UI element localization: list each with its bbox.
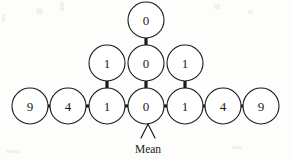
node-base-1: 4 bbox=[50, 88, 86, 124]
node-middle-0: 1 bbox=[89, 45, 125, 81]
caret-up-icon bbox=[141, 124, 155, 138]
node-label: 4 bbox=[65, 99, 72, 114]
node-middle-1: 0 bbox=[128, 45, 164, 81]
node-label: 0 bbox=[143, 99, 150, 114]
node-label: 9 bbox=[27, 99, 34, 114]
mean-marker: Mean bbox=[135, 124, 161, 155]
mean-caption: Mean bbox=[135, 143, 161, 155]
node-base-5: 4 bbox=[205, 88, 241, 124]
node-label: 1 bbox=[182, 99, 189, 114]
node-label: 0 bbox=[143, 13, 150, 28]
node-middle-2: 1 bbox=[167, 45, 203, 81]
node-label: 0 bbox=[143, 56, 150, 71]
deviation-stack-diagram: 9 4 1 0 1 4 9 bbox=[0, 0, 292, 161]
node-base-6: 9 bbox=[243, 88, 279, 124]
node-base-0: 9 bbox=[12, 88, 48, 124]
middle-row: 1 0 1 bbox=[89, 45, 203, 81]
node-label: 1 bbox=[182, 56, 189, 71]
node-label: 4 bbox=[220, 99, 227, 114]
node-label: 1 bbox=[104, 99, 111, 114]
node-base-4: 1 bbox=[167, 88, 203, 124]
top-row: 0 bbox=[128, 2, 164, 38]
node-top-0: 0 bbox=[128, 2, 164, 38]
node-label: 1 bbox=[104, 56, 111, 71]
base-row: 9 4 1 0 1 4 9 bbox=[12, 88, 279, 124]
node-base-3: 0 bbox=[128, 88, 164, 124]
node-base-2: 1 bbox=[89, 88, 125, 124]
node-label: 9 bbox=[258, 99, 265, 114]
